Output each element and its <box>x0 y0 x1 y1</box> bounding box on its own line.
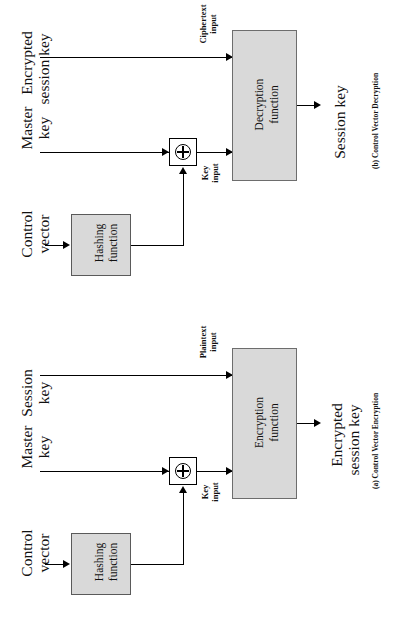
xor-icon <box>175 144 191 160</box>
hashing-function-label-line2: function <box>107 214 120 272</box>
plaintext-input-line <box>40 375 232 376</box>
control-vector-line <box>45 245 65 246</box>
hash-output-vertical-line <box>183 174 184 246</box>
encryption-function-label-line2: function <box>268 352 281 493</box>
control-vector-line <box>45 564 65 565</box>
control-vector-arrowhead <box>63 241 70 249</box>
session-key-output-arrowhead <box>314 101 321 109</box>
port-label-ciphertext-line2: input <box>209 0 219 48</box>
input-label-master-key-line1: Master <box>18 413 35 481</box>
encrypted-session-key-output-arrowhead <box>314 419 321 427</box>
port-label-plaintext-line2: input <box>209 319 219 365</box>
input-label-master-key-line1: Master <box>18 94 35 162</box>
control-vector-arrowhead <box>63 560 70 568</box>
panel-caption-a: (a) Control Vector Encryption <box>372 366 380 516</box>
ciphertext-input-line <box>40 57 232 58</box>
hash-output-horizontal-line <box>131 245 184 246</box>
master-key-arrowhead <box>162 148 169 156</box>
hashing-function-label-line1: Hashing <box>93 533 106 591</box>
master-key-arrowhead <box>162 467 169 475</box>
input-label-control-vector-line2: vector <box>35 198 52 270</box>
panel-control-vector-decryption: Encrypted session key Ciphertext input M… <box>0 0 396 310</box>
output-label-encrypted-line2: session key <box>345 377 362 503</box>
master-key-line <box>40 152 169 153</box>
output-label-session-key: Session key <box>331 66 348 178</box>
hashing-function-label-line2: function <box>107 533 120 591</box>
hash-output-horizontal-line <box>131 564 184 565</box>
decryption-function-label-line2: function <box>268 34 281 175</box>
panel-control-vector-encryption: Session key Plaintext input Master key K… <box>0 311 396 621</box>
output-label-encrypted-line1: Encrypted <box>328 379 345 491</box>
hashing-function-label-line1: Hashing <box>93 214 106 272</box>
port-label-key-line2: input <box>211 475 221 509</box>
input-label-control-vector-line1: Control <box>18 517 35 589</box>
master-key-line <box>40 471 169 472</box>
hash-output-arrowhead <box>179 486 187 493</box>
panel-caption-b: (b) Control Vector Decryption <box>372 46 380 196</box>
port-label-key-line2: input <box>211 156 221 190</box>
hash-output-arrowhead <box>179 167 187 174</box>
xor-icon <box>175 463 191 479</box>
encryption-function-label-line1: Encryption <box>253 352 266 493</box>
input-label-control-vector-line2: vector <box>35 517 52 589</box>
decryption-function-label-line1: Decryption <box>253 34 266 175</box>
input-label-control-vector-line1: Control <box>18 198 35 270</box>
hash-output-vertical-line <box>183 493 184 565</box>
